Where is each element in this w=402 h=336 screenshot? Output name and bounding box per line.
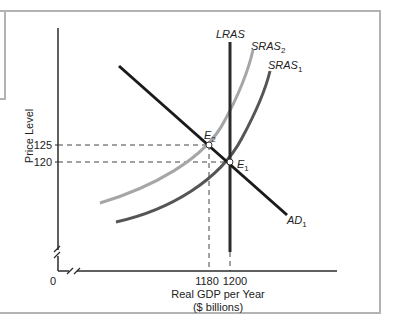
x-tick-label-1180: 1180 bbox=[195, 275, 219, 287]
chart-figure: LRAS SRAS2 SRAS1 AD1 E2 E1 125 120 0 118… bbox=[0, 0, 402, 336]
y-tick-label-125: 125 bbox=[34, 139, 52, 151]
e1-point-marker bbox=[227, 159, 233, 165]
x-tick-label-0: 0 bbox=[50, 275, 56, 287]
reference-lines bbox=[58, 145, 230, 271]
ad1-line bbox=[119, 66, 287, 215]
chart-svg: LRAS SRAS2 SRAS1 AD1 E2 E1 125 120 0 118… bbox=[0, 0, 402, 336]
sras2-label: SRAS2 bbox=[251, 40, 286, 55]
frame-inset-box bbox=[0, 11, 5, 99]
sras1-label: SRAS1 bbox=[268, 59, 303, 74]
sras1-curve bbox=[116, 71, 270, 222]
x-tick-label-1200: 1200 bbox=[223, 275, 247, 287]
y-axis-break-mark bbox=[54, 246, 60, 252]
x-axis-title: Real GDP per Year bbox=[171, 288, 265, 300]
lras-label: LRAS bbox=[216, 28, 245, 40]
y-tick-label-120: 120 bbox=[34, 156, 52, 168]
y-axis-break-mark bbox=[54, 252, 60, 258]
y-axis-title: Price Level bbox=[23, 109, 35, 163]
ad1-label: AD1 bbox=[286, 214, 307, 229]
x-axis-units: ($ billions) bbox=[193, 301, 243, 313]
